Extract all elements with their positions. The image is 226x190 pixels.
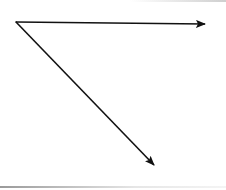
angle-diagram — [0, 0, 226, 190]
bottom-border-line — [0, 186, 226, 188]
horizontal-ray — [16, 22, 205, 24]
vertex-point — [15, 21, 17, 23]
diagonal-ray — [16, 22, 154, 165]
